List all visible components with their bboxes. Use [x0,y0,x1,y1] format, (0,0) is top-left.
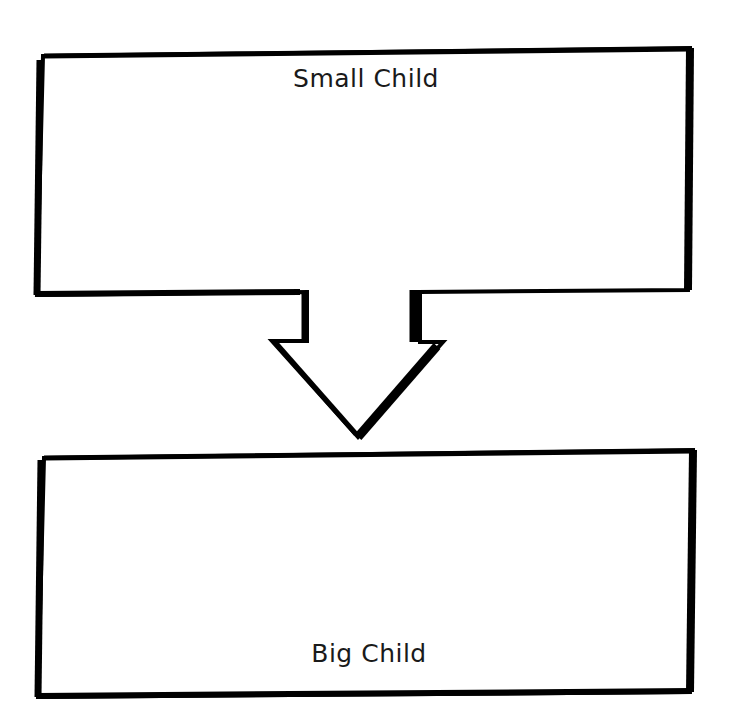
diagram-canvas [0,0,730,728]
small-child-label: Small Child [293,64,439,93]
arrow-down-icon [274,292,356,434]
small-child-box [37,48,690,437]
big-child-label: Big Child [311,639,426,668]
